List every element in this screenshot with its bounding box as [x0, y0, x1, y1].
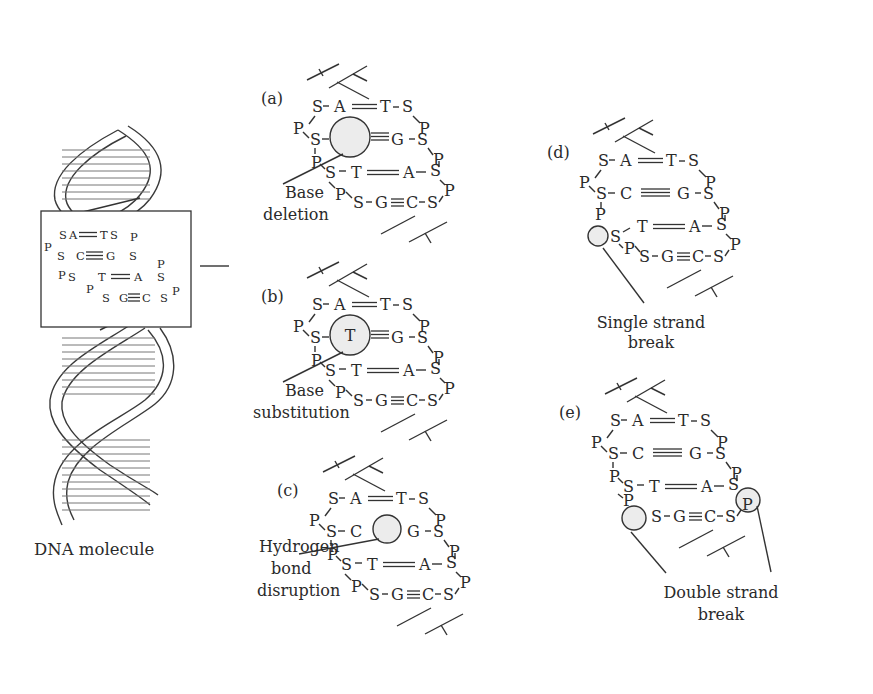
- inset-base-left: A: [68, 228, 78, 242]
- sugar: S: [716, 215, 727, 234]
- backbone-bond: [737, 510, 741, 516]
- strand-end-line: [323, 456, 355, 472]
- sugar: S: [353, 391, 364, 410]
- inset-phosphate: P: [130, 230, 138, 244]
- pair-3-bond: [367, 171, 399, 175]
- backbone-bond: [455, 588, 459, 594]
- base-right: A: [418, 555, 431, 574]
- base-right: A: [402, 361, 415, 380]
- strand-break-circle-lower: [622, 506, 646, 530]
- phosphate: P: [705, 173, 716, 192]
- base-left: G: [661, 247, 674, 266]
- label-pointer-line: [757, 506, 771, 572]
- strand-end-tick: [723, 547, 729, 557]
- backbone-bond: [309, 314, 315, 322]
- sugar: S: [418, 489, 429, 508]
- bottom-strand-ends: [679, 530, 745, 557]
- strand-end-line: [679, 530, 713, 548]
- pair-2-bond: [653, 449, 682, 456]
- phosphate: P: [595, 205, 606, 224]
- phosphate: P: [444, 379, 455, 398]
- backbone-bond: [439, 196, 443, 202]
- sugar: S: [341, 555, 352, 574]
- sugar: S: [353, 193, 364, 212]
- base-left: A: [333, 97, 346, 116]
- panel-d-single-strand-break: (d)SATSPSCGSPPSTAPSPSGCSPSingle strandbr…: [547, 118, 741, 352]
- base-right: A: [700, 477, 713, 496]
- inset-phosphate: P: [86, 282, 94, 296]
- base-left: G: [673, 507, 686, 526]
- inset-base-right: G: [106, 249, 115, 263]
- label-text: Double strand: [663, 583, 778, 602]
- inset-base-right: A: [133, 270, 143, 284]
- strand-break-circle: [588, 226, 608, 246]
- backbone-bond: [303, 132, 309, 138]
- phosphate: P: [591, 433, 602, 452]
- strand-end-tick: [353, 272, 367, 279]
- sugar: S: [430, 359, 441, 378]
- phosphate: P: [293, 119, 304, 138]
- base-left: T: [637, 217, 648, 236]
- sugar: S: [688, 151, 699, 170]
- pair-1-bond: [352, 105, 377, 109]
- sugar: S: [328, 489, 339, 508]
- strand-end-line: [381, 216, 415, 234]
- top-strand-ends: [323, 456, 385, 491]
- base-left: A: [619, 151, 632, 170]
- inset-base-right: T: [100, 228, 108, 242]
- sugar: S: [310, 130, 321, 149]
- label-text: Hydrogen: [259, 537, 340, 556]
- sugar: S: [427, 391, 438, 410]
- backbone-bond: [619, 244, 623, 248]
- pair-4-bond: [391, 199, 404, 206]
- pair-3-bond: [653, 225, 685, 229]
- sugar: S: [402, 97, 413, 116]
- base-left: G: [391, 585, 404, 604]
- sugar: S: [312, 295, 323, 314]
- pair-3-bond: [383, 563, 415, 567]
- helix-lower-segment: [50, 305, 174, 525]
- phosphate: P: [717, 433, 728, 452]
- inset-sugar: S: [57, 249, 65, 263]
- pair-3-bond: [367, 369, 399, 373]
- phosphate: P: [335, 185, 346, 204]
- phosphate: P: [419, 119, 430, 138]
- sugar: S: [610, 227, 621, 246]
- phosphate: P: [351, 577, 362, 596]
- sugar: S: [598, 151, 609, 170]
- base-right: C: [692, 247, 704, 266]
- sugar: S: [312, 97, 323, 116]
- base-right: T: [380, 97, 391, 116]
- dna-damage-diagram: SATSSCGSSTASSGCSPPPPPP DNA molecule (a)S…: [0, 0, 873, 694]
- strand-end-tick: [425, 233, 431, 243]
- strand-end-line: [329, 66, 367, 88]
- strand-end-line: [329, 264, 367, 286]
- sugar: S: [639, 247, 650, 266]
- strand-end-tick: [369, 466, 383, 473]
- backbone-bond: [325, 508, 331, 516]
- sugar: S: [443, 585, 454, 604]
- panel-tag: (b): [261, 287, 284, 306]
- inset-phosphate: P: [157, 257, 165, 271]
- pair-4-bond: [677, 253, 690, 260]
- strand-end-line: [667, 270, 701, 288]
- phosphate: P: [335, 383, 346, 402]
- pair-2-bond: [641, 189, 670, 196]
- base-right: G: [391, 130, 404, 149]
- panel-tag: (d): [547, 143, 570, 162]
- base-right: T: [380, 295, 391, 314]
- base-right: G: [391, 328, 404, 347]
- base-right: A: [402, 163, 415, 182]
- label-text: disruption: [257, 581, 340, 600]
- bottom-strand-ends: [381, 216, 447, 243]
- inset-base-left: C: [76, 249, 85, 263]
- phosphate: P: [309, 511, 320, 530]
- base-right: T: [666, 151, 677, 170]
- base-right: C: [704, 507, 716, 526]
- sugar: S: [610, 411, 621, 430]
- sugar: S: [325, 361, 336, 380]
- pair-4-bond: [391, 397, 404, 404]
- strand-end-tick: [353, 74, 367, 81]
- sugar: S: [713, 247, 724, 266]
- backbone-bond: [725, 250, 729, 256]
